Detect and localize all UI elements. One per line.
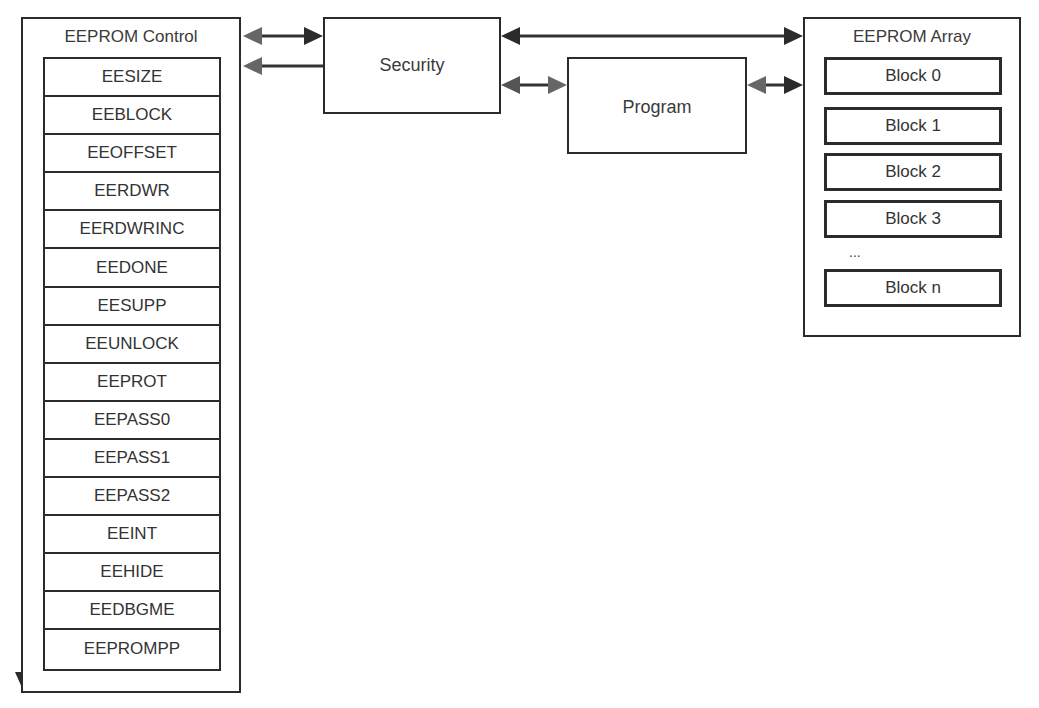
program-label: Program bbox=[569, 97, 745, 118]
program-box: Program bbox=[567, 57, 747, 154]
eeprom-array-box: EEPROM Array Block 0 Block 1 Block 2 Blo… bbox=[803, 17, 1021, 337]
register-item: EEPROT bbox=[45, 364, 219, 402]
register-item: EEDONE bbox=[45, 249, 219, 287]
arrow-program-array-bidirectional bbox=[747, 76, 803, 94]
register-item: EERDWR bbox=[45, 173, 219, 211]
arrow-control-security-bidirectional bbox=[243, 27, 323, 45]
security-box: Security bbox=[323, 17, 501, 114]
array-block: Block 2 bbox=[824, 153, 1002, 191]
register-item: EEDBGME bbox=[45, 592, 219, 630]
register-item: EEPROMPP bbox=[45, 630, 219, 668]
security-label: Security bbox=[325, 55, 499, 76]
register-item: EEINT bbox=[45, 516, 219, 554]
register-item: EEHIDE bbox=[45, 554, 219, 592]
arrow-security-to-control bbox=[243, 57, 323, 75]
array-block: Block n bbox=[824, 269, 1002, 307]
eeprom-control-title: EEPROM Control bbox=[23, 27, 239, 47]
arrow-security-array-bidirectional bbox=[501, 27, 803, 45]
register-item: EEPASS1 bbox=[45, 440, 219, 478]
register-item: EEBLOCK bbox=[45, 97, 219, 135]
register-item: EEPASS2 bbox=[45, 478, 219, 516]
register-item: EESIZE bbox=[45, 59, 219, 97]
register-item: EERDWRINC bbox=[45, 211, 219, 249]
array-block: Block 3 bbox=[824, 200, 1002, 238]
array-block: Block 0 bbox=[824, 57, 1002, 95]
register-item: EESUPP bbox=[45, 288, 219, 326]
arrow-security-program-bidirectional bbox=[501, 76, 567, 94]
array-ellipsis: ... bbox=[849, 244, 861, 260]
array-block: Block 1 bbox=[824, 107, 1002, 145]
register-item: EEUNLOCK bbox=[45, 326, 219, 364]
eeprom-array-title: EEPROM Array bbox=[805, 27, 1019, 47]
eeprom-control-box: EEPROM Control EESIZE EEBLOCK EEOFFSET E… bbox=[21, 17, 241, 693]
register-item: EEOFFSET bbox=[45, 135, 219, 173]
register-list: EESIZE EEBLOCK EEOFFSET EERDWR EERDWRINC… bbox=[43, 57, 221, 671]
register-item: EEPASS0 bbox=[45, 402, 219, 440]
